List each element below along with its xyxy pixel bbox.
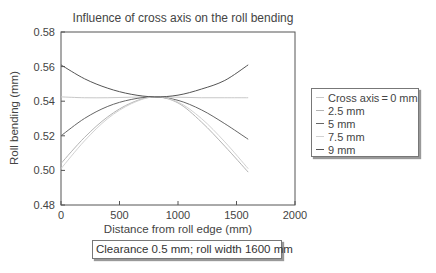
y-tick-label: 0.52 (34, 130, 55, 142)
legend-item: 7.5 mm (316, 130, 418, 143)
legend-swatch-5mm (316, 123, 324, 124)
legend-item: 9 mm (316, 143, 418, 156)
x-tick-label: 1000 (166, 209, 190, 221)
legend-label: 5 mm (328, 118, 356, 130)
x-tick-label: 0 (58, 209, 64, 221)
legend-swatch-7-5mm (316, 136, 324, 137)
y-tick-label: 0.56 (34, 61, 55, 73)
legend-item: 2.5 mm (316, 104, 418, 117)
y-tick-label: 0.54 (34, 95, 55, 107)
annotation-box: Clearance 0.5 mm; roll width 1600 mm (92, 240, 282, 259)
x-tick-label: 1500 (224, 209, 248, 221)
legend-item: 5 mm (316, 117, 418, 130)
legend-item: Cross axis = 0 mm (316, 91, 418, 104)
y-tick-label: 0.58 (34, 26, 55, 38)
legend-swatch-2-5mm (316, 110, 324, 111)
legend-label: 9 mm (328, 144, 356, 156)
legend-label: Cross axis = 0 mm (328, 92, 418, 104)
legend-swatch-0mm (316, 97, 324, 98)
legend-swatch-9mm (316, 149, 324, 150)
x-axis-label: Distance from roll edge (mm) (104, 223, 252, 235)
y-tick-label: 0.50 (34, 164, 55, 176)
legend: Cross axis = 0 mm 2.5 mm 5 mm 7.5 mm 9 m… (311, 88, 419, 157)
plot-frame (61, 32, 295, 205)
x-tick-label: 2000 (283, 209, 307, 221)
legend-label: 2.5 mm (328, 105, 365, 117)
legend-label: 7.5 mm (328, 131, 365, 143)
y-axis-label: Roll bending (mm) (8, 71, 20, 165)
y-axis: 0.480.500.520.540.560.58 (34, 26, 65, 211)
chart-title: Influence of cross axis on the roll bend… (73, 11, 294, 25)
x-tick-label: 500 (110, 209, 128, 221)
y-tick-label: 0.48 (34, 199, 55, 211)
